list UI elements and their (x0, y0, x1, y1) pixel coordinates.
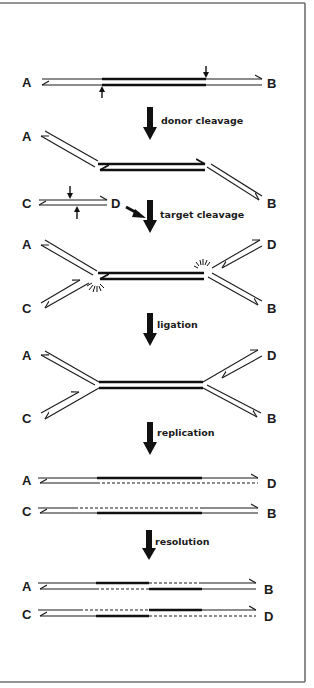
label-c: C (22, 301, 32, 316)
label-d: D (111, 196, 120, 211)
label-a: A (22, 75, 32, 90)
panel-cleaved-donor: A B (22, 129, 276, 211)
step-donor-cleavage: donor cleavage (143, 107, 243, 140)
label-b: B (267, 411, 276, 426)
label-b: B (264, 582, 273, 597)
step-ligation: ligation (143, 313, 198, 346)
step-replication: replication (143, 422, 215, 455)
panel-donor-dna: A B (22, 66, 276, 98)
cleavage-arrow-icon (203, 66, 209, 78)
down-arrow-icon (143, 313, 157, 346)
step-resolution: resolution (142, 530, 210, 560)
panel-replicated: A D C B (22, 473, 276, 521)
down-arrow-icon (143, 200, 157, 233)
label-a: A (22, 473, 32, 488)
label-d: D (267, 348, 276, 363)
label-c: C (22, 196, 32, 211)
label-b: B (267, 301, 276, 316)
panel-strand-transfer: A C D B (22, 237, 276, 316)
label-d: D (264, 609, 273, 624)
step-label: replication (157, 427, 215, 438)
label-b: B (267, 76, 276, 91)
cleavage-arrow-icon (74, 206, 80, 219)
panel-resolved: A B C D (22, 579, 273, 624)
diagonal-arrow-icon (126, 207, 146, 218)
label-a: A (22, 129, 32, 144)
cleavage-arrow-icon (99, 86, 105, 98)
label-a: A (22, 237, 32, 252)
nick-burst-icon (87, 283, 104, 292)
label-b: B (267, 506, 276, 521)
panel-target-dna: C D (22, 186, 146, 219)
down-arrow-icon (142, 530, 156, 560)
label-d: D (267, 237, 276, 252)
nick-burst-icon (194, 259, 210, 268)
label-c: C (22, 411, 32, 426)
cleavage-arrow-icon (67, 186, 73, 199)
step-target-cleavage: target cleavage (143, 200, 244, 233)
step-label: target cleavage (160, 209, 244, 220)
step-label: resolution (155, 536, 210, 547)
label-c: C (22, 607, 32, 622)
down-arrow-icon (143, 107, 157, 140)
transposition-diagram: A B donor cleavage A B (0, 0, 314, 688)
label-d: D (267, 476, 276, 491)
label-a: A (22, 348, 32, 363)
figure-frame (0, 3, 305, 682)
label-b: B (267, 196, 276, 211)
step-label: ligation (157, 319, 198, 330)
down-arrow-icon (143, 422, 157, 455)
step-label: donor cleavage (161, 115, 243, 126)
label-a: A (22, 579, 32, 594)
panel-ligated: A C D B (22, 348, 276, 426)
label-c: C (22, 504, 32, 519)
